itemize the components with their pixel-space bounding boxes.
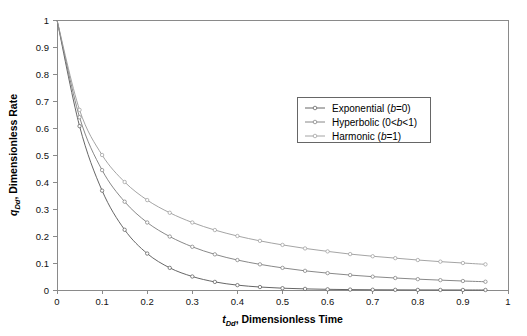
marker-series-0-pt-8 [236,283,239,286]
marker-series-1-pt-3 [123,200,126,203]
x-tick-label-10: 1 [505,296,510,307]
y-tick-label-7: 0.7 [36,96,49,107]
marker-series-1-pt-16 [416,277,419,280]
marker-series-2-pt-18 [461,261,464,264]
marker-series-0-pt-17 [439,288,442,291]
y-tick-label-5: 0.5 [36,150,49,161]
marker-series-0-pt-9 [258,285,261,288]
chart-figure: 00.10.20.30.40.50.60.70.80.91 00.10.20.3… [0,0,527,336]
marker-series-2-pt-5 [168,211,171,214]
marker-series-0-pt-16 [416,288,419,291]
marker-series-1-pt-7 [213,253,216,256]
marker-series-2-pt-3 [123,180,126,183]
x-tick-label-0: 0 [54,296,59,307]
marker-series-0-pt-19 [484,288,487,291]
y-tick-label-10: 1 [44,15,49,26]
marker-series-1-pt-9 [258,263,261,266]
marker-series-1-pt-6 [191,245,194,248]
legend-label-2: Harmonic (b=1) [332,131,401,142]
marker-series-2-pt-19 [484,263,487,266]
marker-series-2-pt-12 [326,250,329,253]
marker-series-1-pt-17 [439,278,442,281]
marker-series-1-pt-18 [461,279,464,282]
x-tick-label-3: 0.3 [186,296,199,307]
y-tick-label-9: 0.9 [36,42,49,53]
marker-series-1-pt-1 [78,116,81,119]
y-tick-label-3: 0.3 [36,204,49,215]
marker-series-0-pt-12 [326,288,329,291]
marker-series-2-pt-17 [439,260,442,263]
marker-series-2-pt-10 [281,243,284,246]
marker-series-1-pt-15 [394,276,397,279]
marker-series-2-pt-11 [303,247,306,250]
marker-series-1-pt-4 [146,221,149,224]
marker-series-1-pt-19 [484,280,487,283]
marker-series-2-pt-7 [213,228,216,231]
x-tick-label-8: 0.8 [411,296,424,307]
legend-label-1: Hyperbolic (0<b<1) [332,117,417,128]
marker-series-0-pt-18 [461,288,464,291]
marker-series-1-pt-13 [348,273,351,276]
marker-series-0-pt-2 [100,189,103,192]
marker-series-1-pt-14 [371,275,374,278]
x-tick-label-7: 0.7 [366,296,379,307]
legend-marker-1 [313,120,317,124]
legend: Exponential (b=0)Hyperbolic (0<b<1)Harmo… [297,97,430,142]
marker-series-1-pt-11 [303,269,306,272]
legend-marker-0 [313,106,317,110]
marker-series-0-pt-14 [371,288,374,291]
y-tick-label-1: 0.1 [36,258,49,269]
y-tick-label-0: 0 [44,285,49,296]
marker-series-2-pt-4 [146,198,149,201]
marker-series-0-pt-15 [394,288,397,291]
y-tick-label-8: 0.8 [36,69,49,80]
y-tick-label-6: 0.6 [36,123,49,134]
marker-series-2-pt-13 [348,252,351,255]
x-tick-label-5: 0.5 [276,296,289,307]
legend-marker-2 [313,134,317,138]
marker-series-1-pt-2 [100,168,103,171]
marker-series-0-pt-13 [348,288,351,291]
marker-series-2-pt-14 [371,255,374,258]
marker-series-2-pt-15 [394,256,397,259]
x-tick-label-9: 0.9 [456,296,469,307]
marker-series-0-pt-5 [168,266,171,269]
marker-series-2-pt-2 [100,153,103,156]
marker-series-0-pt-3 [123,228,126,231]
marker-series-0-pt-7 [213,280,216,283]
marker-series-1-pt-5 [168,235,171,238]
marker-series-2-pt-6 [191,221,194,224]
marker-series-0-pt-4 [146,252,149,255]
marker-series-0-pt-11 [303,287,306,290]
decline-curve-chart: 00.10.20.30.40.50.60.70.80.91 00.10.20.3… [0,0,527,336]
legend-label-0: Exponential (b=0) [332,103,411,114]
x-tick-label-6: 0.6 [321,296,334,307]
marker-series-1-pt-10 [281,266,284,269]
marker-series-1-pt-8 [236,258,239,261]
marker-series-0-pt-10 [281,286,284,289]
marker-series-0-pt-1 [78,124,81,127]
marker-series-2-pt-9 [258,239,261,242]
x-tick-label-1: 0.1 [95,296,108,307]
y-tick-label-2: 0.2 [36,231,49,242]
marker-series-0-pt-6 [191,275,194,278]
x-tick-label-4: 0.4 [231,296,244,307]
x-tick-label-2: 0.2 [141,296,154,307]
marker-series-2-pt-1 [78,108,81,111]
chart-background [0,0,527,336]
marker-series-2-pt-8 [236,234,239,237]
y-tick-label-4: 0.4 [36,177,49,188]
marker-series-2-pt-16 [416,258,419,261]
marker-series-1-pt-12 [326,271,329,274]
